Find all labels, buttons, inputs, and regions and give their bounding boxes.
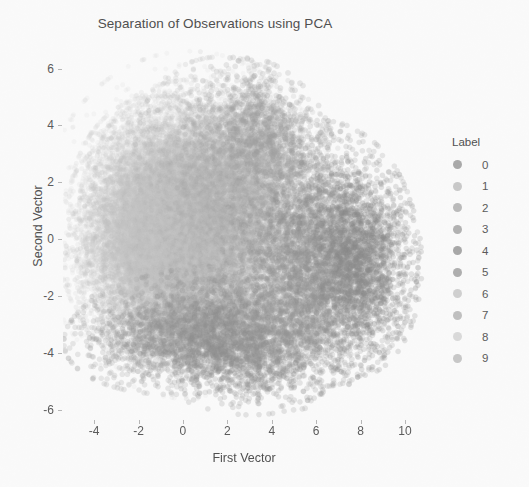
x-tick-mark	[405, 420, 406, 424]
y-tick-mark	[58, 239, 62, 240]
x-axis-tick-10: 10	[398, 424, 411, 438]
legend: Label 0123456789	[450, 136, 525, 369]
legend-item-label: 9	[482, 352, 488, 364]
legend-item-3[interactable]: 3	[450, 219, 525, 241]
y-tick-mark	[58, 353, 62, 354]
legend-item-0[interactable]: 0	[450, 154, 525, 176]
legend-marker-icon	[453, 225, 462, 234]
legend-item-label: 1	[482, 180, 488, 192]
page-title: Separation of Observations using PCA	[0, 16, 430, 31]
y-axis-tick--6: -6	[32, 403, 54, 417]
x-tick-mark	[183, 420, 184, 424]
x-axis-tick-6: 6	[313, 424, 320, 438]
legend-item-label: 5	[482, 266, 488, 278]
x-tick-mark	[272, 420, 273, 424]
y-tick-mark	[58, 410, 62, 411]
y-axis-tick-4: 4	[32, 118, 54, 132]
plot-area	[63, 43, 425, 427]
legend-item-label: 4	[482, 245, 488, 257]
x-axis-label: First Vector	[63, 451, 425, 465]
x-axis-tick--4: -4	[89, 424, 100, 438]
x-tick-mark	[227, 420, 228, 424]
y-axis-tick-6: 6	[32, 62, 54, 76]
y-axis-label: Second Vector	[31, 146, 45, 306]
x-tick-mark	[139, 420, 140, 424]
legend-rows: 0123456789	[450, 154, 525, 369]
legend-item-1[interactable]: 1	[450, 176, 525, 198]
x-axis-tick-2: 2	[224, 424, 231, 438]
legend-item-label: 6	[482, 288, 488, 300]
legend-item-label: 0	[482, 159, 488, 171]
x-axis-tick--2: -2	[133, 424, 144, 438]
legend-item-8[interactable]: 8	[450, 326, 525, 348]
x-tick-mark	[94, 420, 95, 424]
legend-marker-icon	[453, 203, 462, 212]
x-axis-tick-0: 0	[180, 424, 187, 438]
legend-item-2[interactable]: 2	[450, 197, 525, 219]
x-tick-mark	[316, 420, 317, 424]
legend-item-4[interactable]: 4	[450, 240, 525, 262]
legend-title: Label	[452, 136, 525, 148]
legend-item-label: 7	[482, 309, 488, 321]
y-tick-mark	[58, 296, 62, 297]
legend-marker-icon	[453, 289, 462, 298]
chart-figure: Separation of Observations using PCA -4-…	[0, 0, 529, 487]
legend-marker-icon	[453, 268, 462, 277]
legend-marker-icon	[453, 182, 462, 191]
legend-item-6[interactable]: 6	[450, 283, 525, 305]
x-axis-tick-8: 8	[357, 424, 364, 438]
legend-marker-icon	[453, 311, 462, 320]
y-axis-tick--4: -4	[32, 346, 54, 360]
legend-item-label: 8	[482, 331, 488, 343]
legend-item-5[interactable]: 5	[450, 262, 525, 284]
x-tick-mark	[361, 420, 362, 424]
legend-marker-icon	[453, 246, 462, 255]
y-tick-mark	[58, 125, 62, 126]
y-tick-mark	[58, 182, 62, 183]
x-axis-tick-4: 4	[268, 424, 275, 438]
legend-item-label: 2	[482, 202, 488, 214]
legend-item-7[interactable]: 7	[450, 305, 525, 327]
y-tick-mark	[58, 69, 62, 70]
legend-item-label: 3	[482, 223, 488, 235]
legend-item-9[interactable]: 9	[450, 348, 525, 370]
scatter-canvas	[63, 43, 425, 427]
legend-marker-icon	[453, 354, 462, 363]
legend-marker-icon	[453, 160, 462, 169]
legend-marker-icon	[453, 332, 462, 341]
